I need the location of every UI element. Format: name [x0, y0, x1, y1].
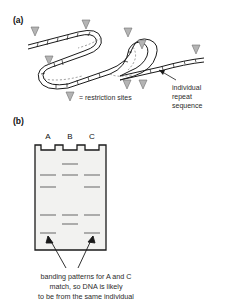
dna-fingerprinting-figure: (a) [0, 0, 226, 306]
lane-label-b: B [67, 132, 72, 141]
callout-line-3: sequence [172, 102, 202, 110]
caption-line-1: banding patterns for A and C [40, 272, 131, 281]
lane-label-a: A [45, 132, 51, 141]
panel-a-label: (a) [13, 15, 24, 25]
caption-line-3: to be from the same individual [38, 292, 134, 301]
panel-b-label: (b) [13, 116, 24, 126]
lane-label-c: C [89, 132, 95, 141]
callout-line-1: individual [172, 84, 202, 91]
callout-line-2: repeat [172, 93, 192, 101]
legend-label: = restriction sites [79, 94, 132, 101]
gel-caption: banding patterns for A and C match, so D… [38, 272, 134, 301]
gel-slab [35, 145, 106, 250]
caption-line-2: match, so DNA is likely [49, 282, 122, 291]
